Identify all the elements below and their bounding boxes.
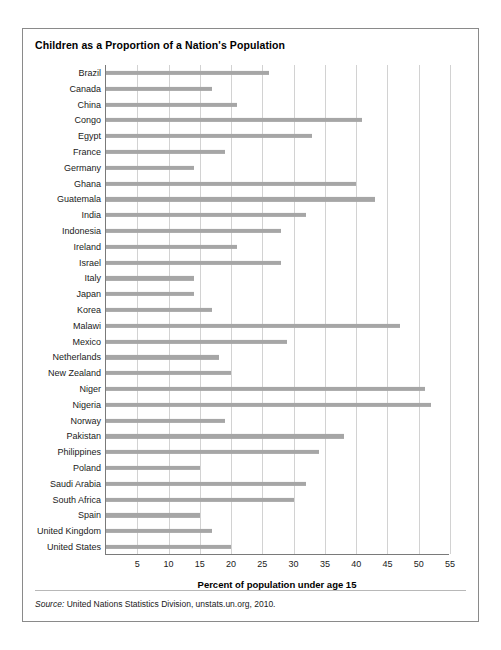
bar-pakistan — [106, 434, 344, 438]
chart-row: Egypt — [106, 128, 449, 144]
y-axis-label-italy: Italy — [84, 273, 101, 283]
chart-row: Canada — [106, 81, 449, 97]
bar-india — [106, 213, 306, 217]
y-axis-label-ghana: Ghana — [74, 179, 101, 189]
x-tick-label: 45 — [382, 559, 392, 569]
bar-malawi — [106, 324, 400, 328]
bar-france — [106, 150, 225, 154]
y-axis-label-mexico: Mexico — [72, 337, 101, 347]
chart-row: Mexico — [106, 334, 449, 350]
chart-row: Ireland — [106, 239, 449, 255]
bar-ireland — [106, 245, 237, 249]
y-axis-label-japan: Japan — [76, 289, 101, 299]
bar-italy — [106, 276, 194, 280]
y-axis-label-nigeria: Nigeria — [72, 400, 101, 410]
x-tick-label: 40 — [351, 559, 361, 569]
y-axis-label-indonesia: Indonesia — [62, 226, 101, 236]
y-axis-label-united-kingdom: United Kingdom — [37, 526, 101, 536]
bar-netherlands — [106, 355, 219, 359]
chart-row: Poland — [106, 460, 449, 476]
chart-row: Saudi Arabia — [106, 476, 449, 492]
source-divider — [35, 590, 466, 591]
bar-egypt — [106, 134, 312, 138]
bar-norway — [106, 419, 225, 423]
chart-row: Germany — [106, 160, 449, 176]
figure-frame: Children as a Proportion of a Nation's P… — [22, 28, 479, 622]
chart-row: Malawi — [106, 318, 449, 334]
y-axis-label-india: India — [81, 210, 101, 220]
bar-germany — [106, 166, 194, 170]
bar-nigeria — [106, 403, 431, 407]
bar-israel — [106, 260, 281, 264]
bar-united-kingdom — [106, 529, 212, 533]
chart-row: South Africa — [106, 492, 449, 508]
bar-united-states — [106, 545, 231, 549]
chart-row: Nigeria — [106, 397, 449, 413]
chart-row: Japan — [106, 286, 449, 302]
y-axis-label-saudi-arabia: Saudi Arabia — [50, 479, 101, 489]
chart-row: Philippines — [106, 444, 449, 460]
chart-row: India — [106, 207, 449, 223]
x-gridline — [450, 65, 451, 554]
x-tick-label: 10 — [164, 559, 174, 569]
chart-row: United States — [106, 539, 449, 555]
bar-chart-plot-area: 510152025303540455055BrazilCanadaChinaCo… — [105, 65, 449, 555]
bar-japan — [106, 292, 194, 296]
chart-row: France — [106, 144, 449, 160]
y-axis-label-france: France — [73, 147, 101, 157]
bar-mexico — [106, 340, 287, 344]
y-axis-label-brazil: Brazil — [78, 68, 101, 78]
chart-row: Israel — [106, 255, 449, 271]
x-tick-label: 20 — [226, 559, 236, 569]
chart-row: Spain — [106, 508, 449, 524]
bar-brazil — [106, 71, 269, 75]
chart-row: New Zealand — [106, 365, 449, 381]
chart-row: China — [106, 97, 449, 113]
y-axis-label-egypt: Egypt — [78, 131, 101, 141]
bar-indonesia — [106, 229, 281, 233]
bar-south-africa — [106, 498, 294, 502]
y-axis-label-spain: Spain — [78, 510, 101, 520]
chart-row: Brazil — [106, 65, 449, 81]
page-title: Children as a Proportion of a Nation's P… — [35, 39, 285, 51]
x-tick-label: 25 — [257, 559, 267, 569]
chart-row: Ghana — [106, 176, 449, 192]
y-axis-label-united-states: United States — [47, 542, 101, 552]
x-tick-label: 55 — [445, 559, 455, 569]
y-axis-label-korea: Korea — [77, 305, 101, 315]
y-axis-label-pakistan: Pakistan — [66, 431, 101, 441]
bar-spain — [106, 513, 200, 517]
bar-saudi-arabia — [106, 482, 306, 486]
y-axis-label-canada: Canada — [69, 84, 101, 94]
bar-korea — [106, 308, 212, 312]
y-axis-label-china: China — [77, 100, 101, 110]
y-axis-label-philippines: Philippines — [57, 447, 101, 457]
y-axis-label-norway: Norway — [70, 416, 101, 426]
chart-row: Guatemala — [106, 191, 449, 207]
x-tick-label: 5 — [135, 559, 140, 569]
chart-row: Niger — [106, 381, 449, 397]
bar-guatemala — [106, 197, 375, 201]
source-label: Source: — [35, 599, 64, 609]
bar-poland — [106, 466, 200, 470]
y-axis-label-netherlands: Netherlands — [52, 352, 101, 362]
y-axis-label-israel: Israel — [79, 258, 101, 268]
y-axis-label-niger: Niger — [79, 384, 101, 394]
y-axis-label-malawi: Malawi — [73, 321, 101, 331]
y-axis-label-congo: Congo — [74, 115, 101, 125]
chart-row: Indonesia — [106, 223, 449, 239]
chart-row: Netherlands — [106, 350, 449, 366]
chart-row: Italy — [106, 270, 449, 286]
bar-canada — [106, 87, 212, 91]
bar-new-zealand — [106, 371, 231, 375]
source-value: United Nations Statistics Division, unst… — [64, 599, 275, 609]
y-axis-label-south-africa: South Africa — [52, 495, 101, 505]
bar-ghana — [106, 181, 356, 185]
y-axis-label-ireland: Ireland — [73, 242, 101, 252]
bar-philippines — [106, 450, 319, 454]
x-axis-title: Percent of population under age 15 — [105, 579, 449, 590]
chart-row: Norway — [106, 413, 449, 429]
x-tick-label: 30 — [289, 559, 299, 569]
source-note: Source: United Nations Statistics Divisi… — [35, 599, 276, 609]
y-axis-label-guatemala: Guatemala — [57, 194, 101, 204]
